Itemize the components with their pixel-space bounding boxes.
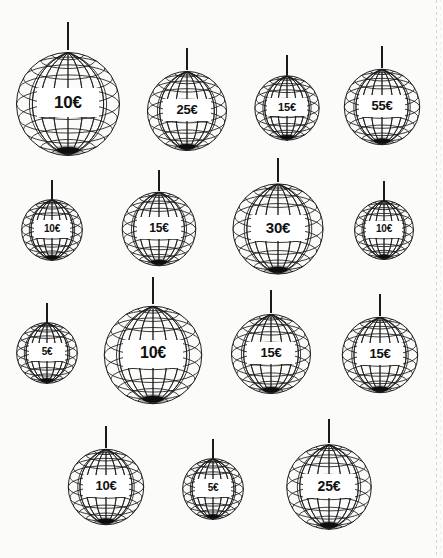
globe-lantern[interactable]: 15€ — [228, 290, 314, 397]
price-label-band — [34, 220, 71, 237]
page-edge-ruling-secondary — [440, 0, 441, 558]
hanging-wire — [158, 170, 160, 191]
price-label-band — [366, 221, 402, 238]
globe-lantern[interactable]: 15€ — [339, 294, 421, 396]
globe-lantern[interactable]: 25€ — [144, 48, 230, 154]
price-label-band — [123, 340, 182, 368]
globe-lantern[interactable]: 5€ — [14, 303, 80, 386]
hanging-wire — [328, 419, 330, 443]
price-label-band — [247, 342, 295, 365]
globe-lantern[interactable]: 5€ — [180, 439, 246, 522]
globe-lantern[interactable]: 15€ — [119, 170, 199, 269]
globe-lantern[interactable]: 10€ — [12, 22, 124, 160]
hanging-wire — [381, 46, 383, 68]
price-label-band — [83, 475, 129, 497]
globe-lantern[interactable]: 10€ — [352, 181, 416, 262]
globe-lantern[interactable]: 55€ — [341, 46, 423, 148]
globe-lantern[interactable]: 15€ — [252, 55, 322, 143]
globe-lantern[interactable]: 10€ — [100, 277, 206, 408]
hanging-wire — [379, 294, 381, 316]
hanging-wire — [277, 158, 279, 182]
hanging-wire — [105, 426, 107, 448]
price-label-band — [357, 343, 403, 365]
price-label-band — [359, 95, 405, 117]
price-label-band — [303, 474, 355, 498]
page-edge-ruling — [436, 0, 437, 558]
hanging-wire — [67, 22, 69, 50]
price-label-band — [163, 99, 211, 122]
globe-lantern[interactable]: 10€ — [19, 180, 85, 263]
hanging-wire — [152, 277, 154, 304]
globe-lantern[interactable]: 10€ — [65, 426, 147, 528]
globe-lantern[interactable]: 25€ — [283, 419, 375, 533]
hanging-wire — [186, 48, 188, 70]
catalog-page: 10€25€15€55€10€15€30€10€5€10€15€15€10€5€… — [0, 0, 443, 558]
price-label-band — [29, 343, 66, 360]
price-label-band — [37, 88, 100, 118]
globe-lantern[interactable]: 30€ — [229, 158, 327, 278]
price-label-band — [251, 215, 306, 241]
hanging-wire — [286, 55, 288, 75]
hanging-wire — [270, 290, 272, 313]
price-label-band — [137, 217, 182, 238]
price-label-band — [195, 479, 232, 496]
price-label-band — [267, 98, 306, 117]
